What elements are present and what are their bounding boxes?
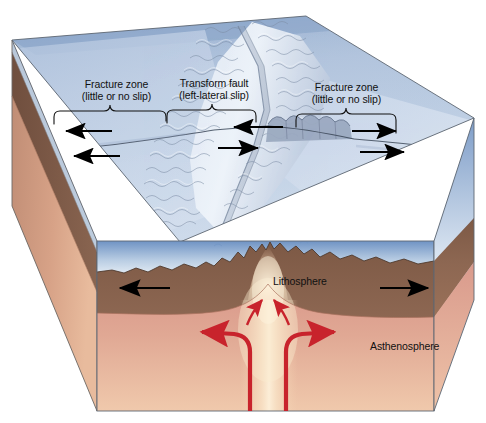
label-lithosphere: Lithosphere bbox=[273, 275, 327, 287]
label-transform-fault: Transform fault (left-lateral slip) bbox=[155, 77, 273, 102]
label-asthenosphere: Asthenosphere bbox=[370, 340, 439, 352]
label-transform-fault-line1: Transform fault bbox=[155, 77, 273, 89]
block-diagram-svg bbox=[0, 0, 486, 423]
label-fracture-zone-right-line2: (little or no slip) bbox=[289, 93, 404, 105]
block-front-face bbox=[97, 232, 434, 411]
label-fracture-zone-right: Fracture zone (little or no slip) bbox=[289, 81, 404, 106]
label-fracture-zone-right-line1: Fracture zone bbox=[289, 81, 404, 93]
label-transform-fault-line2: (left-lateral slip) bbox=[155, 89, 273, 101]
block-right-side-face bbox=[434, 118, 474, 411]
figure-canvas: Fracture zone (little or no slip) Transf… bbox=[0, 0, 486, 423]
